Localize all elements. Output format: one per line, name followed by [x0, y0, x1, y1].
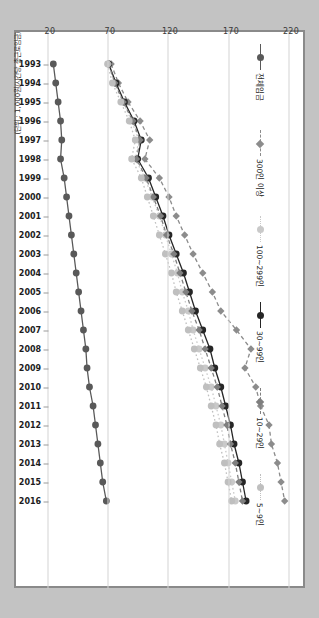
- data-point: [217, 307, 224, 314]
- series-line: [108, 64, 245, 501]
- year-axis-label: 2007: [15, 325, 45, 334]
- data-point: [54, 98, 61, 105]
- data-point: [143, 193, 150, 200]
- data-point: [216, 440, 223, 447]
- year-axis-label: 2016: [15, 496, 45, 505]
- data-point: [89, 402, 96, 409]
- data-point: [52, 79, 59, 86]
- legend-item[interactable]: 30~99인: [255, 302, 266, 363]
- data-point: [86, 383, 93, 390]
- data-point: [190, 345, 197, 352]
- data-point: [83, 364, 90, 371]
- data-point: [49, 60, 56, 67]
- year-axis-label: 2003: [15, 249, 45, 258]
- year-axis-label: 2015: [15, 477, 45, 486]
- year-axis-label: 2001: [15, 211, 45, 220]
- year-axis-label: 2009: [15, 363, 45, 372]
- year-axis-label: 2014: [15, 458, 45, 467]
- legend-label: 300인 이상: [255, 159, 266, 197]
- year-axis-label: 2012: [15, 420, 45, 429]
- year-axis-label: 2002: [15, 230, 45, 239]
- year-axis-label: 2006: [15, 306, 45, 315]
- legend-marker-icon: [256, 474, 265, 500]
- gridline: [107, 30, 108, 588]
- legend-label: 전체임금: [255, 73, 266, 101]
- unit-note: (단위 : 1,000원/시간당 총근로임금): [12, 23, 22, 143]
- legend-label: 10~29인: [255, 417, 266, 449]
- data-point: [155, 231, 162, 238]
- year-axis-label: 2013: [15, 439, 45, 448]
- data-point: [72, 269, 79, 276]
- chart-page: 2201701207020199319941995199619971998199…: [0, 0, 319, 618]
- value-axis-label: 120: [157, 27, 183, 36]
- data-point: [65, 212, 72, 219]
- series-line: [107, 64, 231, 501]
- data-point: [63, 193, 70, 200]
- series-전체임금: [49, 60, 109, 504]
- year-axis-label: 2008: [15, 344, 45, 353]
- data-point: [155, 174, 162, 181]
- legend-item[interactable]: 전체임금: [255, 44, 266, 101]
- chart-legend: 전체임금300인 이상100~299인30~99인10~29인5~9인: [262, 36, 306, 556]
- series-line: [53, 64, 106, 501]
- data-point: [189, 250, 196, 257]
- series-line: [108, 64, 235, 501]
- data-point: [75, 288, 82, 295]
- legend-marker-icon: [256, 388, 265, 414]
- legend-label: 30~99인: [255, 331, 266, 363]
- data-point: [70, 250, 77, 257]
- data-point: [99, 478, 106, 485]
- legend-marker-icon: [256, 302, 265, 328]
- legend-item[interactable]: 100~299인: [255, 216, 266, 287]
- legend-marker-icon: [256, 44, 265, 70]
- data-point: [58, 136, 65, 143]
- year-axis-label: 2011: [15, 401, 45, 410]
- data-point: [180, 231, 187, 238]
- series-10~29인: [105, 60, 246, 504]
- value-axis-label: 170: [217, 27, 243, 36]
- legend-marker-icon: [256, 130, 265, 156]
- data-point: [94, 440, 101, 447]
- data-point: [82, 345, 89, 352]
- legend-label: 100~299인: [255, 245, 266, 287]
- legend-item[interactable]: 5~9인: [255, 474, 266, 526]
- data-point: [172, 288, 179, 295]
- data-point: [212, 421, 219, 428]
- data-point: [178, 307, 185, 314]
- data-point: [57, 117, 64, 124]
- data-point: [149, 212, 156, 219]
- data-point: [60, 174, 67, 181]
- value-axis-label: 20: [37, 27, 63, 36]
- data-point: [172, 212, 179, 219]
- data-point: [57, 155, 64, 162]
- value-axis-label: 220: [278, 27, 304, 36]
- gridline: [47, 30, 48, 588]
- legend-item[interactable]: 300인 이상: [255, 130, 266, 197]
- series-5~9인: [104, 60, 235, 504]
- legend-label: 5~9인: [255, 503, 266, 526]
- value-axis-label: 70: [97, 27, 123, 36]
- data-point: [201, 345, 208, 352]
- year-axis-label: 2004: [15, 268, 45, 277]
- data-point: [207, 402, 214, 409]
- data-point: [67, 231, 74, 238]
- data-point: [247, 345, 254, 352]
- legend-item[interactable]: 10~29인: [255, 388, 266, 449]
- data-point: [202, 383, 209, 390]
- data-point: [96, 459, 103, 466]
- series-100~299인: [105, 60, 238, 504]
- data-point: [184, 326, 191, 333]
- data-point: [199, 269, 206, 276]
- data-point: [92, 421, 99, 428]
- data-point: [80, 326, 87, 333]
- legend-marker-icon: [256, 216, 265, 242]
- year-axis-label: 2010: [15, 382, 45, 391]
- data-point: [77, 307, 84, 314]
- year-axis-label: 2000: [15, 192, 45, 201]
- year-axis-label: 1999: [15, 173, 45, 182]
- year-axis-label: 2005: [15, 287, 45, 296]
- year-axis-label: 1998: [15, 154, 45, 163]
- data-point: [146, 136, 153, 143]
- gridline: [228, 30, 229, 588]
- gridline: [168, 30, 169, 588]
